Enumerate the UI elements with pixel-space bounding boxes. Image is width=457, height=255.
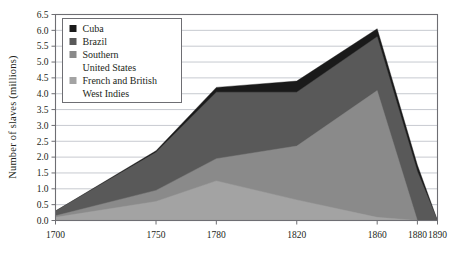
legend-label: Cuba	[83, 23, 105, 34]
y-axis-tick-label: 6.0	[37, 26, 49, 36]
y-axis-tick-label: 0.5	[37, 200, 49, 210]
y-axis-tick-label: 3.0	[37, 121, 49, 131]
y-axis-tick-label: 5.0	[37, 57, 49, 67]
y-axis-tick-label: 3.5	[37, 105, 49, 115]
y-axis-tick-label: 2.0	[37, 152, 49, 162]
legend-swatch-brazil	[70, 38, 77, 45]
legend: CubaBrazilSouthernUnited StatesFrench an…	[63, 19, 182, 103]
legend-swatch-southern-united-states	[70, 51, 77, 58]
legend-label: Southern	[83, 49, 119, 60]
stacked-area-chart: 0.00.51.01.52.02.53.03.54.04.55.05.56.06…	[0, 0, 457, 255]
legend-label-continued: West Indies	[83, 88, 130, 99]
y-axis-tick-label: 0.0	[37, 216, 49, 226]
legend-swatch-cuba	[70, 25, 77, 32]
x-axis-tick-label: 1880	[408, 230, 427, 240]
y-axis-title: Number of slaves (millions)	[7, 55, 19, 179]
legend-label: French and British	[83, 75, 157, 86]
chart-canvas: 0.00.51.01.52.02.53.03.54.04.55.05.56.06…	[0, 0, 457, 255]
y-axis-tick-label: 6.5	[37, 10, 49, 20]
x-axis-tick-label: 1780	[207, 230, 226, 240]
x-axis-tick-label: 1700	[46, 230, 65, 240]
legend-swatch-french-and-british-west-indies	[70, 77, 77, 84]
legend-label: Brazil	[83, 36, 108, 47]
x-axis-tick-label: 1860	[368, 230, 387, 240]
x-axis-tick-label: 1890	[428, 230, 447, 240]
x-axis-tick-label: 1750	[147, 230, 166, 240]
y-axis-tick-label: 1.5	[37, 168, 49, 178]
y-axis-tick-label: 4.0	[37, 89, 49, 99]
y-axis-tick-label: 4.5	[37, 73, 49, 83]
x-axis-tick-label: 1820	[287, 230, 306, 240]
y-axis-tick-label: 2.5	[37, 137, 49, 147]
y-axis-tick-label: 5.5	[37, 41, 49, 51]
legend-label-continued: United States	[83, 62, 137, 73]
y-axis-tick-label: 1.0	[37, 184, 49, 194]
